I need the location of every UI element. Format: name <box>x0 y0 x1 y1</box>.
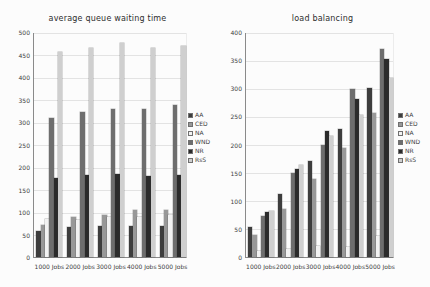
y-axis-tick-label: 50 <box>6 233 30 239</box>
legend-item: NA <box>398 130 420 136</box>
x-category-label: 2000 Jobs <box>65 263 96 270</box>
bar-RsS <box>269 211 273 257</box>
legend-swatch-CED <box>188 122 193 127</box>
legend-item: AA <box>188 112 210 118</box>
bar-RsS <box>299 165 303 257</box>
y-axis-tick-label: 100 <box>218 199 242 205</box>
x-category-label: 5000 Jobs <box>365 263 395 270</box>
x-category-label: 1000 Jobs <box>246 263 276 270</box>
y-axis-tick-label: 150 <box>218 171 242 177</box>
x-category-label: 3000 Jobs <box>96 263 127 270</box>
legend-label: NR <box>195 148 204 154</box>
legend-label: AA <box>405 112 413 118</box>
bar-RsS <box>329 136 333 258</box>
legend-swatch-NR <box>188 149 193 154</box>
legend-item: WND <box>398 139 420 145</box>
gridline <box>34 33 186 34</box>
y-axis-tick-label: 100 <box>6 210 30 216</box>
legend-item: CED <box>398 121 420 127</box>
legend-item: NR <box>398 148 420 154</box>
y-axis-tick-label: 200 <box>6 165 30 171</box>
legend-swatch-RsS <box>188 158 193 163</box>
y-axis-tick-label: 250 <box>218 114 242 120</box>
y-axis-tick-label: 200 <box>218 143 242 149</box>
bar-RsS <box>389 78 393 257</box>
legend-label: RsS <box>195 157 206 163</box>
y-axis-tick-label: 300 <box>6 120 30 126</box>
legend-item: RsS <box>188 157 210 163</box>
x-category-label: 4000 Jobs <box>335 263 365 270</box>
legend-label: WND <box>195 139 210 145</box>
legend-swatch-WND <box>188 140 193 145</box>
x-category-label: 4000 Jobs <box>126 263 157 270</box>
legend-swatch-AA <box>188 113 193 118</box>
x-category-label: 3000 Jobs <box>306 263 336 270</box>
bar-RsS <box>151 48 155 257</box>
y-axis-tick-label: 500 <box>6 30 30 36</box>
gridline <box>246 61 393 62</box>
legend-label: CED <box>195 121 208 127</box>
legend-label: NA <box>405 130 414 136</box>
scanned-figure-page: { "page": { "background": "#fcfcfc" }, "… <box>0 0 430 287</box>
y-axis-tick-label: 400 <box>6 75 30 81</box>
bar-RsS <box>181 46 185 258</box>
legend-label: AA <box>195 112 203 118</box>
gridline <box>34 123 186 124</box>
y-axis-tick-label: 300 <box>218 86 242 92</box>
bar-RsS <box>58 52 62 257</box>
x-category-label: 1000 Jobs <box>34 263 65 270</box>
y-axis-tick-label: 450 <box>6 53 30 59</box>
legend-item: RsS <box>398 157 420 163</box>
bar-CED <box>342 148 346 257</box>
legend-swatch-CED <box>398 122 403 127</box>
legend-item: WND <box>188 139 210 145</box>
legend-label: NR <box>405 148 414 154</box>
gridline <box>34 100 186 101</box>
gridline <box>34 168 186 169</box>
legend-swatch-NA <box>398 131 403 136</box>
plot-area: 0501001502002503003504001000 Jobs2000 Jo… <box>245 33 394 258</box>
legend-swatch-NR <box>398 149 403 154</box>
plot-area: 0501001502002503003504004505001000 Jobs2… <box>33 33 187 258</box>
legend-label: NA <box>195 130 204 136</box>
legend-item: NR <box>188 148 210 154</box>
chart-legend: AACEDNAWNDNRRsS <box>188 112 210 166</box>
legend-label: WND <box>405 139 420 145</box>
y-axis-tick-label: 150 <box>6 188 30 194</box>
gridline <box>34 78 186 79</box>
x-category-label: 5000 Jobs <box>157 263 188 270</box>
bar-RsS <box>359 115 363 257</box>
chart-legend: AACEDNAWNDNRRsS <box>398 112 420 166</box>
y-axis-tick-label: 50 <box>218 227 242 233</box>
y-axis-tick-label: 350 <box>218 58 242 64</box>
legend-swatch-RsS <box>398 158 403 163</box>
legend-item: NA <box>188 130 210 136</box>
load-balancing-chart: load balancing 0501001502002503003504001… <box>215 0 430 287</box>
legend-swatch-WND <box>398 140 403 145</box>
y-axis-tick-label: 400 <box>218 30 242 36</box>
gridline <box>34 145 186 146</box>
chart-title: average queue waiting time <box>0 14 215 23</box>
bar-RsS <box>120 43 124 257</box>
legend-item: CED <box>188 121 210 127</box>
legend-label: RsS <box>405 157 416 163</box>
legend-swatch-NA <box>188 131 193 136</box>
legend-label: CED <box>405 121 418 127</box>
queue-waiting-time-chart: average queue waiting time 0501001502002… <box>0 0 215 287</box>
y-axis-tick-label: 0 <box>6 255 30 261</box>
x-category-label: 2000 Jobs <box>276 263 306 270</box>
gridline <box>34 55 186 56</box>
legend-swatch-AA <box>398 113 403 118</box>
y-axis-tick-label: 250 <box>6 143 30 149</box>
gridline <box>246 33 393 34</box>
y-axis-tick-label: 0 <box>218 255 242 261</box>
chart-title: load balancing <box>215 14 430 23</box>
legend-item: AA <box>398 112 420 118</box>
y-axis-tick-label: 350 <box>6 98 30 104</box>
bar-RsS <box>89 48 93 257</box>
